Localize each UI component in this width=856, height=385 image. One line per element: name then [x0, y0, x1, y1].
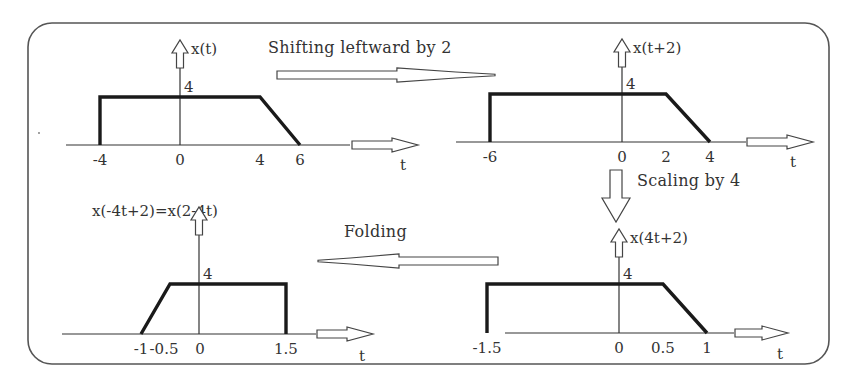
- x-tick: -0.5: [150, 340, 179, 358]
- x-tick-labels: -1.5 0 0.5 1: [473, 339, 712, 357]
- x-tick: 0: [175, 151, 185, 169]
- signal-transformation-diagram: Shifting leftward by 2 Scaling by 4 Fold…: [0, 0, 856, 385]
- x-axis-label: t: [790, 153, 796, 171]
- scale-arrow-down-icon: [602, 170, 630, 222]
- x-tick: -4: [93, 151, 108, 169]
- plot-x-t: x(t) 4 t -4 0 4 6: [66, 40, 418, 174]
- x-tick: -1: [134, 340, 149, 358]
- x-tick-labels: -4 0 4 6: [93, 151, 305, 169]
- operation-arrows: [277, 68, 630, 268]
- x-axis-arrow-icon: [735, 326, 788, 340]
- plot-x-t-plus-2: x(t+2) 4 t -6 0 2 4: [456, 39, 813, 171]
- fold-arrow-left-icon: [318, 254, 498, 268]
- y-axis-label: x(t+2): [633, 39, 681, 57]
- x-axis-arrow-icon: [747, 135, 813, 149]
- x-tick: 6: [295, 151, 305, 169]
- x-axis-arrow-icon: [352, 138, 418, 152]
- signal-waveform: [100, 97, 300, 145]
- y-tick-label: 4: [203, 265, 213, 283]
- fold-operation-label: Folding: [344, 222, 407, 241]
- x-tick: -1.5: [473, 339, 502, 357]
- x-axis-label: t: [359, 347, 365, 365]
- x-tick: 0: [614, 339, 624, 357]
- stray-dot: [38, 132, 40, 134]
- y-axis-label: x(4t+2): [630, 229, 688, 247]
- x-tick-labels: -1 -0.5 0 1.5: [134, 340, 298, 358]
- x-axis-arrow-icon: [317, 327, 373, 341]
- y-tick-label: 4: [626, 75, 636, 93]
- y-tick-label: 4: [184, 78, 194, 96]
- x-tick: 0: [617, 148, 627, 166]
- plot-x-2-minus-4t: x(-4t+2)=x(2-4t) 4 t -1 -0.5 0 1.5: [62, 202, 373, 365]
- x-tick: 0: [195, 340, 205, 358]
- signal-waveform: [141, 284, 286, 334]
- y-axis-arrow-icon: [614, 39, 630, 67]
- y-axis-label: x(t): [191, 40, 217, 58]
- x-axis-label: t: [777, 345, 783, 363]
- x-tick-labels: -6 0 2 4: [483, 148, 715, 166]
- plot-x-4t-plus-2: x(4t+2) 4 t -1.5 0 0.5 1: [473, 229, 788, 363]
- x-tick: 2: [661, 148, 671, 166]
- x-tick: 0.5: [651, 339, 675, 357]
- y-axis-arrow-icon: [611, 229, 627, 257]
- x-tick: 4: [255, 151, 265, 169]
- x-tick: -6: [483, 148, 498, 166]
- x-tick: 1.5: [274, 340, 298, 358]
- diagram-canvas: Shifting leftward by 2 Scaling by 4 Fold…: [0, 0, 856, 385]
- shift-operation-label: Shifting leftward by 2: [268, 38, 452, 57]
- x-tick: 1: [702, 339, 712, 357]
- signal-waveform: [490, 94, 710, 142]
- x-tick: 4: [705, 148, 715, 166]
- y-tick-label: 4: [623, 265, 633, 283]
- shift-arrow-right-icon: [277, 68, 495, 82]
- y-axis-arrow-icon: [172, 40, 188, 68]
- x-axis-label: t: [400, 156, 406, 174]
- scale-operation-label: Scaling by 4: [637, 171, 740, 190]
- signal-waveform: [487, 284, 707, 333]
